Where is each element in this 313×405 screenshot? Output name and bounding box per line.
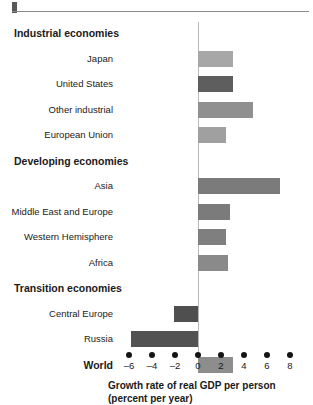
group-heading-label: Transition economies xyxy=(14,277,122,299)
bar xyxy=(198,102,253,118)
bar xyxy=(198,51,233,67)
chart-bar-row: Central Europe xyxy=(0,303,313,325)
chart-bar-row: Western Hemisphere xyxy=(0,226,313,248)
bar xyxy=(174,306,198,322)
bar-row-label: European Union xyxy=(0,124,113,146)
tick-dot-icon xyxy=(264,352,270,358)
x-axis-title: Growth rate of real GDP per person(perce… xyxy=(108,380,313,405)
bar xyxy=(198,76,233,92)
bar-row-label: Asia xyxy=(0,175,113,197)
tick-dot-icon xyxy=(195,352,201,358)
bar-row-label: Other industrial xyxy=(0,99,113,121)
chart-bar-row: Asia xyxy=(0,175,313,197)
tick-dot-icon xyxy=(149,352,155,358)
bar-chart: Industrial economiesJapanUnited StatesOt… xyxy=(0,14,313,399)
rule-line xyxy=(12,11,309,12)
chart-bar-row: Japan xyxy=(0,48,313,70)
group-heading-label: Industrial economies xyxy=(14,22,119,44)
bar xyxy=(198,127,226,143)
chart-bar-row: Middle East and Europe xyxy=(0,201,313,223)
x-axis-title-line: Growth rate of real GDP per person xyxy=(108,380,313,393)
bar-row-label: Middle East and Europe xyxy=(0,201,113,223)
tick-dot-icon xyxy=(287,352,293,358)
bar-row-label: United States xyxy=(0,73,113,95)
bar xyxy=(198,255,228,271)
bar-row-label: Japan xyxy=(0,48,113,70)
tick-dot-icon xyxy=(241,352,247,358)
x-axis-tick-label: 8 xyxy=(276,360,304,371)
bar-row-label: Russia xyxy=(0,328,113,350)
chart-group-heading: Industrial economies xyxy=(0,22,313,44)
bar xyxy=(198,178,280,194)
bar-row-label: Central Europe xyxy=(0,303,113,325)
x-axis-title-line: (percent per year) xyxy=(108,393,313,405)
chart-group-heading: Developing economies xyxy=(0,150,313,172)
tick-dot-icon xyxy=(172,352,178,358)
chart-bar-row: Other industrial xyxy=(0,99,313,121)
bar-row-label: Africa xyxy=(0,252,113,274)
bar-row-label: Western Hemisphere xyxy=(0,226,113,248)
top-rule xyxy=(0,0,313,14)
chart-bar-row: United States xyxy=(0,73,313,95)
group-heading-label: Developing economies xyxy=(14,150,128,172)
chart-bar-row: Russia xyxy=(0,328,313,350)
chart-group-heading: Transition economies xyxy=(0,277,313,299)
chart-bar-row: Africa xyxy=(0,252,313,274)
bar xyxy=(198,204,230,220)
bar xyxy=(131,331,198,347)
x-axis: –6–4–202468 xyxy=(0,352,313,382)
tick-dot-icon xyxy=(218,352,224,358)
bar xyxy=(198,229,226,245)
chart-bar-row: European Union xyxy=(0,124,313,146)
tick-dot-icon xyxy=(126,352,132,358)
